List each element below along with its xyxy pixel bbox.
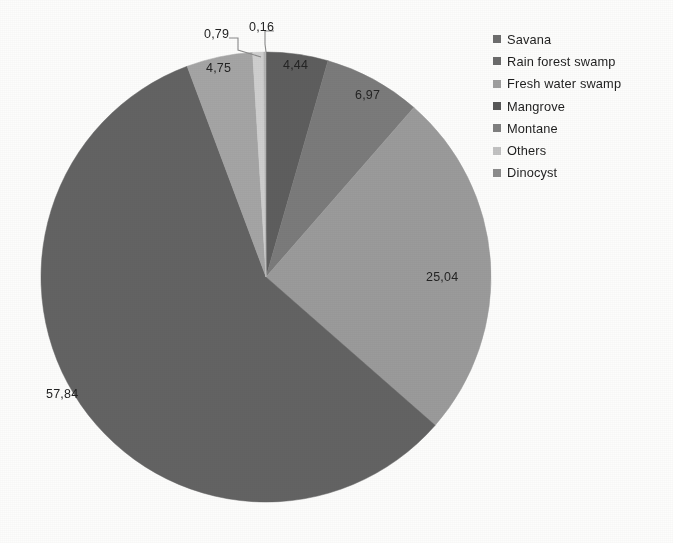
legend-item-label: Dinocyst bbox=[507, 165, 557, 180]
slice-value-label: 0,16 bbox=[249, 20, 274, 34]
slice-value-label: 6,97 bbox=[355, 88, 380, 102]
legend-swatch-icon bbox=[493, 147, 501, 155]
legend-item-label: Fresh water swamp bbox=[507, 76, 621, 91]
legend-item-label: Savana bbox=[507, 32, 551, 47]
chart-legend: SavanaRain forest swampFresh water swamp… bbox=[493, 28, 663, 184]
leader-line-dinocyst bbox=[265, 31, 274, 52]
legend-item-others[interactable]: Others bbox=[493, 139, 663, 161]
slice-value-label: 0,79 bbox=[204, 27, 229, 41]
slice-value-label: 4,44 bbox=[283, 58, 308, 72]
slice-value-label: 57,84 bbox=[46, 387, 78, 401]
legend-item-fresh-water-swamp[interactable]: Fresh water swamp bbox=[493, 73, 663, 95]
legend-item-montane[interactable]: Montane bbox=[493, 117, 663, 139]
legend-swatch-icon bbox=[493, 80, 501, 88]
legend-swatch-icon bbox=[493, 57, 501, 65]
legend-item-dinocyst[interactable]: Dinocyst bbox=[493, 162, 663, 184]
pie-slices bbox=[41, 52, 491, 502]
legend-item-label: Others bbox=[507, 143, 546, 158]
legend-swatch-icon bbox=[493, 102, 501, 110]
legend-item-mangrove[interactable]: Mangrove bbox=[493, 95, 663, 117]
legend-item-rain-forest-swamp[interactable]: Rain forest swamp bbox=[493, 50, 663, 72]
pie-chart-figure: 4,446,9725,0457,844,750,790,16 SavanaRai… bbox=[0, 0, 673, 543]
legend-swatch-icon bbox=[493, 169, 501, 177]
slice-value-label: 4,75 bbox=[206, 61, 231, 75]
legend-item-label: Montane bbox=[507, 121, 558, 136]
legend-swatch-icon bbox=[493, 35, 501, 43]
legend-item-label: Rain forest swamp bbox=[507, 54, 616, 69]
legend-swatch-icon bbox=[493, 124, 501, 132]
legend-item-label: Mangrove bbox=[507, 99, 565, 114]
slice-value-label: 25,04 bbox=[426, 270, 458, 284]
legend-item-savana[interactable]: Savana bbox=[493, 28, 663, 50]
